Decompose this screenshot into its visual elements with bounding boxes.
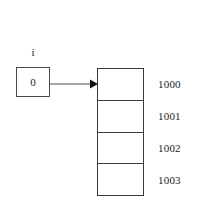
address-label: 1000 xyxy=(158,68,202,100)
address-label: 1001 xyxy=(158,100,202,132)
array-cell xyxy=(98,101,143,133)
array-cell xyxy=(98,69,143,101)
address-label-column: 1000 1001 1002 1003 xyxy=(158,68,202,196)
right-arrow-icon xyxy=(49,76,99,92)
variable-name-label: i xyxy=(16,46,50,58)
array-cell xyxy=(98,133,143,165)
diagram-canvas: i 0 1000 1001 1002 1003 xyxy=(0,0,203,214)
variable-value: 0 xyxy=(17,68,49,96)
variable-box: 0 xyxy=(16,67,50,97)
array-cell xyxy=(98,164,143,195)
address-label: 1002 xyxy=(158,132,202,164)
memory-array xyxy=(97,68,144,196)
address-label: 1003 xyxy=(158,164,202,196)
